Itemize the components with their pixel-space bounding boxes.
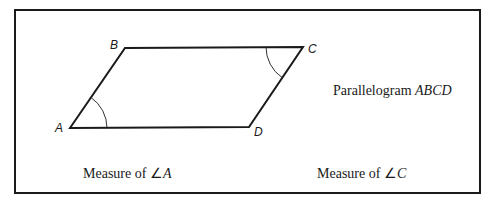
vertex-label-b: B <box>110 39 118 51</box>
angle-symbol-icon: ∠ <box>150 166 163 181</box>
vertex-label-a: A <box>55 122 63 134</box>
figure-title-name: ABCD <box>415 83 452 98</box>
angle-arc-a <box>91 98 107 129</box>
caption-angle-a-prefix: Measure of <box>83 166 150 181</box>
figure-title-text: Parallelogram <box>333 83 412 98</box>
vertex-label-c: C <box>308 43 317 55</box>
caption-angle-c: Measure of ∠C <box>317 167 406 181</box>
angle-symbol-icon: ∠ <box>384 166 397 181</box>
caption-angle-c-vertex: C <box>397 166 406 181</box>
figure-title: Parallelogram ABCD <box>333 84 452 98</box>
parallelogram-figure <box>0 0 494 204</box>
caption-angle-a-vertex: A <box>163 166 172 181</box>
caption-angle-c-prefix: Measure of <box>317 166 384 181</box>
caption-angle-a: Measure of ∠A <box>83 167 171 181</box>
angle-arc-c <box>266 47 282 78</box>
vertex-label-d: D <box>254 126 263 138</box>
